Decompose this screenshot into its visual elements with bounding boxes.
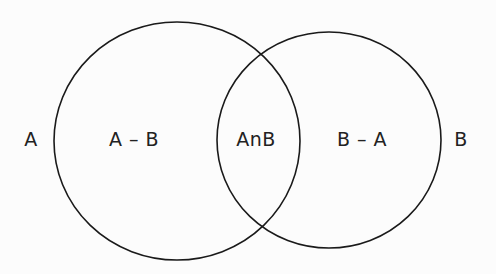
label-set-b: B: [454, 130, 468, 149]
label-set-a: A: [24, 130, 38, 149]
venn-diagram: A A – B AnB B – A B: [0, 0, 496, 274]
label-a-minus-b: A – B: [109, 130, 159, 149]
label-a-intersect-b: AnB: [236, 130, 276, 149]
label-b-minus-a: B – A: [337, 130, 387, 149]
